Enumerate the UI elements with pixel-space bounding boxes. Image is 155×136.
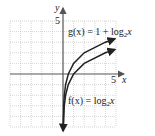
y-axis-label: y: [54, 2, 60, 13]
f-label: f(x) = log2x: [68, 95, 115, 108]
x-tick-5: 5: [111, 74, 116, 85]
f-curve: [63, 49, 115, 127]
log-graph: y 5 5 x g(x) = 1 + log2x f(x) = log2x: [0, 0, 155, 136]
g-label: g(x) = 1 + log2x: [68, 26, 132, 39]
x-axis-label: x: [121, 74, 127, 85]
y-tick-5: 5: [55, 15, 60, 26]
